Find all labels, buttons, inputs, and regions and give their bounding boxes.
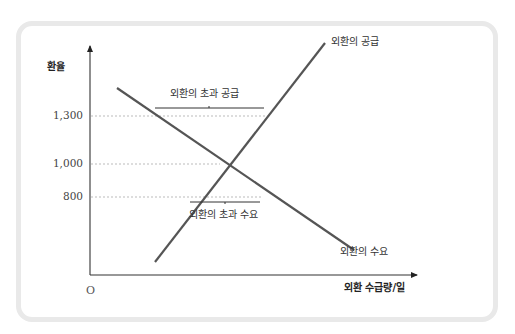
- excess-demand-label: 외환의 초과 수요: [189, 210, 258, 220]
- demand-line: [117, 88, 354, 250]
- origin-label: O: [86, 285, 95, 296]
- x-axis-label: 외환 수급량/일: [344, 283, 405, 293]
- excess-supply-bracket: [155, 106, 264, 108]
- demand-line-label: 외환의 수요: [340, 247, 388, 257]
- y-axis-label: 환율: [47, 62, 65, 72]
- tick-1000: 1,000: [33, 158, 83, 169]
- tick-800: 800: [33, 191, 83, 202]
- supply-line-label: 외환의 공급: [331, 37, 379, 47]
- supply-line: [155, 43, 325, 262]
- excess-supply-label: 외환의 초과 공급: [170, 89, 239, 99]
- tick-1300: 1,300: [33, 110, 83, 121]
